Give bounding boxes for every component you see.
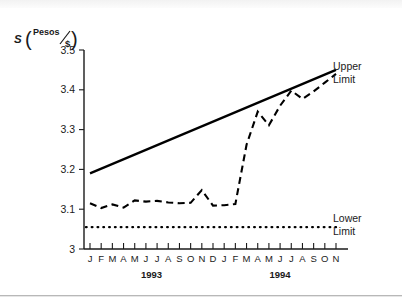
y-axis-tick-label: 3.1 bbox=[60, 203, 75, 215]
y-axis-tick-label: 3.4 bbox=[60, 83, 75, 95]
x-axis-month-label: N bbox=[333, 253, 340, 264]
x-axis-month-label: M bbox=[243, 253, 251, 264]
y-axis-tick-label: 3.2 bbox=[60, 163, 75, 175]
y-axis-paren-open: ( bbox=[25, 28, 32, 50]
y-axis-ticks-group: 33.13.23.33.43.5 bbox=[60, 44, 84, 255]
x-axis-ticks-group bbox=[90, 243, 336, 249]
x-axis-labels-group: JFMAMJJASONDJFMAMJJASON bbox=[88, 253, 340, 264]
x-axis-month-label: A bbox=[165, 253, 172, 264]
lower-limit-label-line1: Lower bbox=[333, 212, 362, 224]
x-axis-month-label: O bbox=[321, 253, 328, 264]
x-axis-month-label: J bbox=[222, 253, 227, 264]
x-axis-month-label: S bbox=[310, 253, 316, 264]
x-axis-year-label: 1994 bbox=[270, 269, 292, 280]
x-axis-month-label: J bbox=[144, 253, 149, 264]
x-axis-month-label: J bbox=[289, 253, 294, 264]
x-axis-month-label: A bbox=[120, 253, 127, 264]
y-axis-numerator: Pesos bbox=[33, 27, 60, 37]
x-axis-month-label: N bbox=[198, 253, 205, 264]
exchange-rate-chart-figure: S ( Pesos $ ) 33.13.23.33.43.5 Upper Lim… bbox=[0, 0, 402, 307]
y-axis-tick-label: 3.3 bbox=[60, 123, 75, 135]
x-axis-month-label: A bbox=[299, 253, 306, 264]
upper-limit-series bbox=[90, 70, 336, 173]
x-axis-month-label: J bbox=[155, 253, 160, 264]
x-axis-month-label: F bbox=[232, 253, 238, 264]
y-axis-tick-label: 3 bbox=[69, 243, 75, 255]
x-axis-month-label: D bbox=[210, 253, 217, 264]
upper-limit-annotation: Upper Limit bbox=[333, 60, 362, 85]
x-axis-month-label: A bbox=[255, 253, 262, 264]
year-labels-group: 19931994 bbox=[141, 269, 291, 280]
x-axis-month-label: F bbox=[98, 253, 104, 264]
x-axis-month-label: M bbox=[265, 253, 273, 264]
x-axis-month-label: O bbox=[187, 253, 194, 264]
x-axis-year-label: 1993 bbox=[141, 269, 162, 280]
upper-limit-label-line1: Upper bbox=[333, 60, 362, 72]
exchange-rate-series bbox=[90, 74, 336, 208]
y-axis-tick-label: 3.5 bbox=[60, 44, 75, 56]
lower-limit-label-line2: Limit bbox=[333, 225, 355, 237]
lower-limit-annotation: Lower Limit bbox=[333, 212, 362, 237]
x-axis-month-label: J bbox=[278, 253, 283, 264]
x-axis-month-label: J bbox=[88, 253, 93, 264]
upper-limit-label-line2: Limit bbox=[333, 73, 355, 85]
x-axis-month-label: M bbox=[131, 253, 139, 264]
y-axis-symbol: S bbox=[14, 33, 22, 45]
x-axis-month-label: S bbox=[176, 253, 182, 264]
chart-svg: S ( Pesos $ ) 33.13.23.33.43.5 Upper Lim… bbox=[0, 0, 402, 307]
x-axis-month-label: M bbox=[108, 253, 116, 264]
